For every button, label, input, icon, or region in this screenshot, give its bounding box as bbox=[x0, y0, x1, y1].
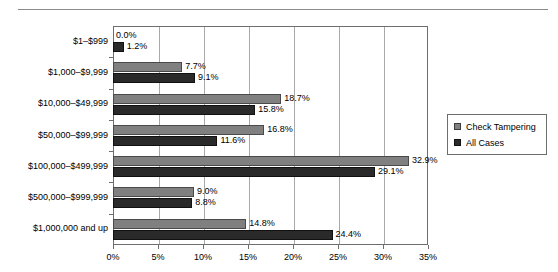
bar-value-label: 8.8% bbox=[195, 197, 216, 207]
chart-row: 32.9%29.1% bbox=[113, 151, 428, 182]
x-axis-tick bbox=[113, 245, 114, 249]
chart-row: 16.8%11.6% bbox=[113, 120, 428, 151]
legend-swatch-check-tampering bbox=[454, 123, 461, 130]
bar-value-label: 9.1% bbox=[198, 72, 219, 82]
bar-value-label: 11.6% bbox=[220, 135, 245, 145]
y-axis-tick bbox=[109, 89, 113, 90]
x-axis-tick bbox=[293, 245, 294, 249]
bar-check-tampering bbox=[113, 125, 264, 135]
y-axis-category-label: $500,000–$999,999 bbox=[0, 192, 108, 203]
legend-swatch-all-cases bbox=[454, 139, 461, 146]
chart-row: 9.0%8.8% bbox=[113, 182, 428, 213]
y-axis-category-label: $100,000–$499,999 bbox=[0, 161, 108, 172]
bar-value-label: 14.8% bbox=[249, 218, 275, 228]
x-axis-tick-label: 20% bbox=[273, 252, 313, 263]
x-axis-tick-label: 15% bbox=[228, 252, 268, 263]
bar-value-label: 0.0% bbox=[116, 30, 137, 40]
x-axis-tick-label: 10% bbox=[183, 252, 223, 263]
chart-row: 18.7%15.8% bbox=[113, 89, 428, 120]
x-axis-tick bbox=[428, 245, 429, 249]
x-axis-tick bbox=[158, 245, 159, 249]
bar-all-cases bbox=[113, 167, 375, 177]
x-axis-tick-label: 0% bbox=[93, 252, 133, 263]
bar-check-tampering bbox=[113, 219, 246, 229]
bar-all-cases bbox=[113, 42, 124, 52]
bar-check-tampering bbox=[113, 94, 281, 104]
bar-all-cases bbox=[113, 198, 192, 208]
x-axis-tick-label: 25% bbox=[318, 252, 358, 263]
y-axis-tick bbox=[109, 57, 113, 58]
bar-check-tampering bbox=[113, 187, 194, 197]
bar-value-label: 18.7% bbox=[284, 93, 310, 103]
bar-all-cases bbox=[113, 136, 217, 146]
bar-all-cases bbox=[113, 105, 255, 115]
x-axis-tick bbox=[338, 245, 339, 249]
bar-all-cases bbox=[113, 73, 195, 83]
chart-row: 0.0%1.2% bbox=[113, 26, 428, 57]
y-axis-tick bbox=[109, 214, 113, 215]
y-axis-category-label: $10,000–$49,999 bbox=[0, 98, 108, 109]
chart-plot-area: 0.0%1.2%7.7%9.1%18.7%15.8%16.8%11.6%32.9… bbox=[113, 26, 428, 245]
y-axis-tick bbox=[109, 120, 113, 121]
bar-value-label: 16.8% bbox=[267, 124, 293, 134]
y-axis-category-label: $50,000–$99,999 bbox=[0, 130, 108, 141]
legend-label-check-tampering: Check Tampering bbox=[466, 122, 536, 132]
y-axis-category-label: $1,000,000 and up bbox=[0, 223, 108, 234]
bar-value-label: 32.9% bbox=[412, 155, 438, 165]
bar-value-label: 29.1% bbox=[378, 166, 404, 176]
bar-value-label: 9.0% bbox=[197, 186, 218, 196]
x-axis-tick bbox=[203, 245, 204, 249]
chart-row: 7.7%9.1% bbox=[113, 57, 428, 88]
bar-all-cases bbox=[113, 230, 333, 240]
cropped-page-title bbox=[0, 0, 558, 8]
bar-check-tampering bbox=[113, 156, 409, 166]
x-axis-tick-label: 30% bbox=[363, 252, 403, 263]
y-axis-category-label: $1,000–$9,999 bbox=[0, 67, 108, 78]
bar-value-label: 24.4% bbox=[336, 229, 362, 239]
chart-legend: Check Tampering All Cases bbox=[447, 114, 547, 155]
x-axis-tick bbox=[383, 245, 384, 249]
y-axis-category-label: $1–$999 bbox=[0, 36, 108, 47]
header-divider bbox=[18, 9, 548, 10]
bar-value-label: 15.8% bbox=[258, 104, 284, 114]
y-axis-tick bbox=[109, 182, 113, 183]
bar-value-label: 7.7% bbox=[185, 61, 206, 71]
x-axis-tick-label: 35% bbox=[408, 252, 448, 263]
bar-value-label: 1.2% bbox=[127, 41, 148, 51]
x-axis-tick-label: 5% bbox=[138, 252, 178, 263]
x-axis-tick bbox=[248, 245, 249, 249]
y-axis-labels: $1–$999$1,000–$9,999$10,000–$49,999$50,0… bbox=[0, 26, 108, 245]
y-axis-tick bbox=[109, 151, 113, 152]
legend-item-all-cases: All Cases bbox=[454, 136, 540, 149]
legend-item-check-tampering: Check Tampering bbox=[454, 120, 540, 133]
chart-row: 14.8%24.4% bbox=[113, 214, 428, 245]
bar-check-tampering bbox=[113, 62, 182, 72]
legend-label-all-cases: All Cases bbox=[466, 138, 504, 148]
